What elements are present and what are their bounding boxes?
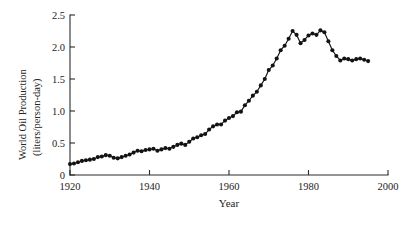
data-point bbox=[104, 153, 108, 157]
data-point bbox=[80, 159, 84, 163]
data-point bbox=[275, 56, 279, 60]
x-tick-label-1940: 1940 bbox=[139, 181, 160, 192]
x-axis-title: Year bbox=[219, 197, 240, 209]
y-tick-label-1-0: 1.0 bbox=[52, 106, 65, 117]
data-point bbox=[195, 135, 199, 139]
data-point bbox=[267, 68, 271, 72]
data-point bbox=[366, 59, 370, 63]
data-point bbox=[259, 83, 263, 87]
data-point bbox=[283, 44, 287, 48]
data-point bbox=[271, 64, 275, 68]
data-point bbox=[354, 57, 358, 61]
data-point bbox=[108, 154, 112, 158]
data-point bbox=[147, 147, 151, 151]
data-point bbox=[187, 140, 191, 144]
data-point bbox=[155, 149, 159, 153]
x-tick-label-1980: 1980 bbox=[298, 181, 319, 192]
data-point bbox=[295, 33, 299, 37]
y-axis-title-line1: World Oil Production bbox=[17, 69, 28, 160]
x-tick-label-1960: 1960 bbox=[219, 181, 240, 192]
data-point bbox=[183, 143, 187, 147]
data-point bbox=[346, 57, 350, 61]
data-point bbox=[322, 30, 326, 34]
data-point bbox=[151, 147, 155, 151]
data-point bbox=[310, 32, 314, 36]
data-point bbox=[287, 37, 291, 41]
data-point bbox=[334, 54, 338, 58]
y-tick-label-1-5: 1.5 bbox=[52, 74, 65, 85]
data-point bbox=[199, 133, 203, 137]
data-point bbox=[291, 29, 295, 33]
chart-figure: World Oil Production (liters/person-day)… bbox=[0, 0, 416, 226]
x-axis-tick-labels: 1920 1940 1960 1980 2000 bbox=[60, 181, 399, 192]
data-point bbox=[207, 128, 211, 132]
oil-production-line-chart: World Oil Production (liters/person-day)… bbox=[0, 0, 416, 226]
x-tick-label-1920: 1920 bbox=[60, 181, 81, 192]
data-point bbox=[159, 147, 163, 151]
data-point bbox=[330, 48, 334, 52]
data-point bbox=[92, 157, 96, 161]
data-point bbox=[100, 154, 104, 158]
data-point bbox=[306, 33, 310, 37]
y-tick-label-0-5: 0.5 bbox=[52, 138, 65, 149]
data-point bbox=[279, 48, 283, 52]
data-point bbox=[88, 158, 92, 162]
data-point bbox=[211, 124, 215, 128]
data-point bbox=[136, 149, 140, 153]
data-point bbox=[223, 119, 227, 123]
data-point bbox=[358, 56, 362, 60]
data-point bbox=[350, 58, 354, 62]
data-point bbox=[299, 41, 303, 45]
x-tick-label-2000: 2000 bbox=[378, 181, 399, 192]
data-point bbox=[326, 39, 330, 43]
data-point bbox=[179, 142, 183, 146]
data-point bbox=[247, 99, 251, 103]
data-point bbox=[243, 103, 247, 107]
data-point bbox=[116, 156, 120, 160]
data-point bbox=[76, 160, 80, 164]
data-point bbox=[171, 145, 175, 149]
y-axis-tick-labels: 0 0.5 1.0 1.5 2.0 2.5 bbox=[52, 10, 65, 181]
data-point bbox=[124, 154, 128, 158]
data-series-markers bbox=[68, 28, 370, 166]
data-point bbox=[219, 122, 223, 126]
data-point bbox=[84, 158, 88, 162]
data-point bbox=[255, 90, 259, 94]
data-point bbox=[132, 151, 136, 155]
data-point bbox=[112, 156, 116, 160]
data-point bbox=[128, 152, 132, 156]
y-tick-label-2-0: 2.0 bbox=[52, 42, 65, 53]
data-point bbox=[140, 149, 144, 153]
data-point bbox=[167, 147, 171, 151]
data-point bbox=[215, 122, 219, 126]
data-point bbox=[251, 94, 255, 98]
y-axis-title: World Oil Production (liters/person-day) bbox=[17, 69, 43, 160]
data-point bbox=[231, 114, 235, 118]
data-point bbox=[143, 148, 147, 152]
data-point bbox=[338, 58, 342, 62]
data-point bbox=[203, 132, 207, 136]
data-point bbox=[362, 58, 366, 62]
data-point bbox=[302, 38, 306, 42]
data-point bbox=[175, 143, 179, 147]
data-point bbox=[314, 33, 318, 37]
data-point bbox=[163, 146, 167, 150]
y-axis-title-line2: (liters/person-day) bbox=[31, 78, 43, 156]
x-axis-ticks bbox=[70, 170, 388, 175]
data-series-line bbox=[70, 30, 368, 164]
y-tick-label-2-5: 2.5 bbox=[52, 10, 65, 21]
data-point bbox=[72, 161, 76, 165]
data-point bbox=[96, 155, 100, 159]
data-point bbox=[263, 77, 267, 81]
data-point bbox=[120, 155, 124, 159]
data-point bbox=[191, 136, 195, 140]
y-tick-label-0: 0 bbox=[60, 170, 65, 181]
data-point bbox=[342, 56, 346, 60]
data-point bbox=[68, 162, 72, 166]
y-axis-ticks bbox=[70, 15, 75, 175]
data-point bbox=[318, 28, 322, 32]
data-point bbox=[235, 110, 239, 114]
data-point bbox=[227, 116, 231, 120]
data-point bbox=[239, 110, 243, 114]
